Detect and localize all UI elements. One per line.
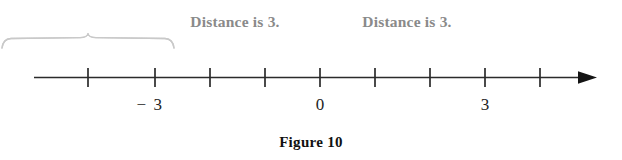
axis-label-negative-three: − 3 — [110, 96, 190, 113]
brace-label-right: Distance is 3. — [322, 14, 492, 30]
axis-arrowhead-icon — [578, 71, 597, 84]
brace-right-icon — [0, 33, 176, 49]
number-line-axis — [0, 58, 622, 98]
brace-label-left: Distance is 3. — [150, 14, 320, 30]
figure-number-line-distance: Distance is 3. Distance is 3. — [0, 0, 622, 160]
figure-caption: Figure 10 — [0, 134, 622, 151]
axis-label-positive-three: 3 — [445, 96, 525, 113]
axis-label-zero: 0 — [280, 96, 360, 113]
